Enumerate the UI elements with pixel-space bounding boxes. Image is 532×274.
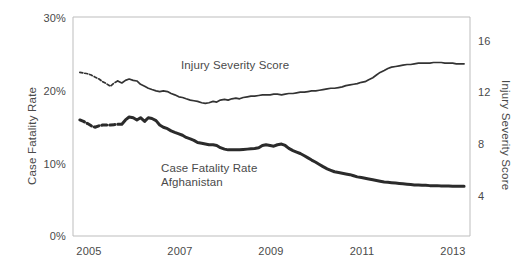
series-line-1-dashed [80, 120, 118, 127]
plot-area [0, 0, 532, 274]
plot-frame [73, 17, 470, 236]
series-line-0-dashed [80, 72, 118, 86]
series-line-1-solid [118, 117, 464, 186]
chart-container: Case Fatality Rate Injury Severity Score… [0, 0, 532, 274]
series-line-0-solid [118, 63, 464, 104]
